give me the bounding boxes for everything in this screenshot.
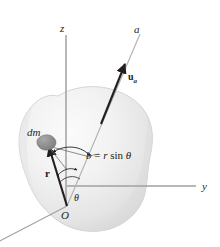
- x-axis-line: [0, 206, 67, 243]
- theta-angle-label: θ: [74, 193, 79, 203]
- unit-vector-label: ua: [128, 72, 137, 85]
- origin-label: O: [61, 210, 69, 221]
- equation-function: sin: [108, 149, 126, 161]
- mechanics-figure: z y a ua dm r b = r sin θ θ O: [0, 0, 220, 247]
- axis-label-z: z: [60, 23, 64, 34]
- equation-angle-symbol: θ: [126, 149, 131, 161]
- equation-operator: =: [92, 149, 104, 161]
- position-vector-label: r: [45, 168, 50, 179]
- figure-canvas: [0, 0, 220, 247]
- unit-vector-subscript: a: [134, 77, 138, 85]
- mass-element-label: dm: [27, 127, 40, 138]
- b-distance-equation: b = r sin θ: [86, 150, 131, 161]
- axis-label-y: y: [202, 181, 207, 192]
- axis-label-a: a: [134, 24, 140, 35]
